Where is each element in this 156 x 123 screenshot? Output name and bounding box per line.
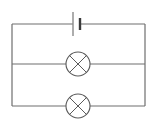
battery-icon: [73, 12, 80, 36]
branch-top: [12, 12, 145, 36]
circuit-diagram: [0, 0, 156, 123]
lamp-icon: [66, 94, 90, 118]
branch-bottom: [12, 94, 145, 118]
branch-middle: [12, 52, 145, 76]
lamp-icon: [66, 52, 90, 76]
